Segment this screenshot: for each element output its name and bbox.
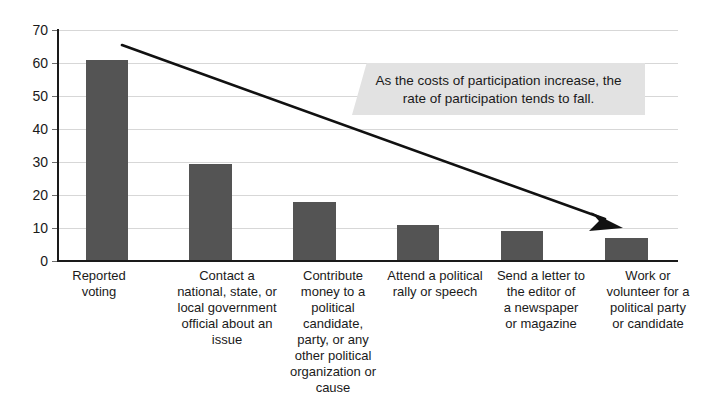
- x-axis-line: [57, 260, 678, 262]
- y-axis-label-10-text: 10: [14, 221, 48, 235]
- y-axis-label-10: 10: [14, 221, 48, 235]
- y-axis-label-0: 0: [14, 254, 48, 268]
- y-axis-label-70-text: 70: [14, 23, 48, 37]
- bar-work-volunteer: [605, 238, 648, 261]
- annotation-callout-text: As the costs of participation increase, …: [352, 72, 645, 108]
- y-tick-60: [52, 63, 57, 64]
- y-tick-0: [52, 261, 57, 262]
- bar-send-letter: [501, 231, 543, 261]
- y-axis-line: [57, 29, 59, 262]
- y-axis-label-60-text: 60: [14, 56, 48, 70]
- annotation-callout-line-2: rate of participation tends to fall.: [352, 90, 645, 108]
- x-axis-label-contribute-money: Contributemoney to apoliticalcandidate,p…: [282, 268, 384, 396]
- gridline-10: [58, 228, 678, 229]
- bar-contact-official: [189, 164, 232, 261]
- y-axis-label-40-text: 40: [14, 122, 48, 136]
- y-axis-label-40: 40: [14, 122, 48, 136]
- annotation-callout-line-1: As the costs of participation increase, …: [352, 72, 645, 90]
- y-axis-label-70: 70: [14, 23, 48, 37]
- y-tick-40: [52, 129, 57, 130]
- y-axis-label-50-text: 50: [14, 89, 48, 103]
- y-tick-50: [52, 96, 57, 97]
- bar-attend-rally: [397, 225, 439, 261]
- y-axis-label-30-text: 30: [14, 155, 48, 169]
- bar-contribute-money: [293, 202, 336, 261]
- y-axis-label-50: 50: [14, 89, 48, 103]
- x-axis-label-reported-voting: Reportedvoting: [62, 268, 136, 300]
- gridline-20: [58, 195, 678, 196]
- x-axis-label-work-volunteer: Work orvolunteer for apolitical partyor …: [588, 268, 708, 332]
- y-tick-70: [52, 30, 57, 31]
- y-tick-30: [52, 162, 57, 163]
- gridline-40: [58, 129, 678, 130]
- bar-reported-voting: [86, 60, 128, 261]
- bar-chart-figure: 70 60 50 40 30 20 10 0 As the costs of p…: [0, 0, 708, 416]
- gridline-70: [58, 30, 678, 31]
- x-axis-label-contact-official: Contact anational, state, orlocal govern…: [156, 268, 298, 348]
- gridline-30: [58, 162, 678, 163]
- y-tick-20: [52, 195, 57, 196]
- y-axis-label-60: 60: [14, 56, 48, 70]
- x-axis-label-send-letter: Send a letter tothe editor ofa newspaper…: [480, 268, 602, 332]
- y-axis-label-20-text: 20: [14, 188, 48, 202]
- y-axis-label-20: 20: [14, 188, 48, 202]
- y-axis-label-0-text: 0: [14, 254, 48, 268]
- y-axis-label-30: 30: [14, 155, 48, 169]
- y-tick-10: [52, 228, 57, 229]
